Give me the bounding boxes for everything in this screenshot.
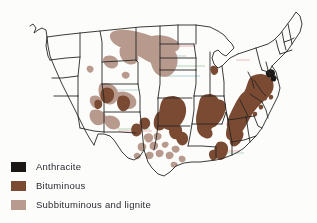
- legend-item-anthracite: Anthracite: [11, 157, 201, 176]
- legend-swatch-bituminous: [11, 181, 26, 191]
- legend-item-subbituminous-lignite: Subbituminous and lignite: [11, 195, 201, 214]
- legend-label-subbituminous-lignite: Subbituminous and lignite: [36, 199, 151, 210]
- legend-label-bituminous: Bituminous: [36, 180, 86, 191]
- map-legend: Anthracite Bituminous Subbituminous and …: [11, 157, 201, 214]
- legend-swatch-subbituminous-lignite: [11, 200, 26, 210]
- coal-deposits-figure: Anthracite Bituminous Subbituminous and …: [0, 0, 317, 223]
- legend-swatch-anthracite: [11, 162, 26, 172]
- legend-item-bituminous: Bituminous: [11, 176, 201, 195]
- legend-label-anthracite: Anthracite: [36, 161, 81, 172]
